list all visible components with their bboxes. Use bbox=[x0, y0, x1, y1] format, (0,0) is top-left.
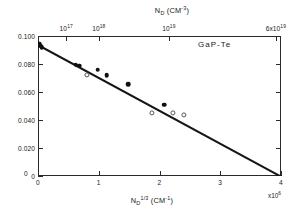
x-tick-label: 0 bbox=[36, 179, 40, 186]
x-tick-label: 2 bbox=[158, 179, 162, 186]
top-axis-title: ND (CM-3) bbox=[155, 6, 189, 15]
top-tick-label: 1017 bbox=[60, 25, 73, 32]
y-tick bbox=[38, 64, 43, 65]
top-tick bbox=[276, 36, 277, 41]
y-tick-label: 0.040 bbox=[0, 117, 35, 124]
data-point-filled bbox=[126, 82, 131, 87]
top-tick bbox=[99, 36, 100, 41]
x-tick-label: 1 bbox=[97, 179, 101, 186]
y-tick-right bbox=[276, 120, 281, 121]
x-tick bbox=[99, 171, 100, 176]
top-tick bbox=[66, 36, 67, 41]
top-tick-label: 1019 bbox=[162, 25, 175, 32]
y-tick-label: 0.080 bbox=[0, 61, 35, 68]
figure-chart-ed-vs-nd: ND (CM-3) GaP-Te 0123400.0200.0400.0600.… bbox=[0, 0, 303, 214]
y-tick bbox=[38, 176, 43, 177]
y-tick-label: 0.100 bbox=[0, 33, 35, 40]
data-point-filled bbox=[39, 45, 44, 50]
y-tick bbox=[38, 92, 43, 93]
data-point-filled bbox=[95, 67, 100, 72]
y-tick-label: 0.020 bbox=[0, 145, 35, 152]
x-axis-multiplier: x106 bbox=[268, 192, 281, 199]
data-point-filled bbox=[162, 103, 167, 108]
data-point-open bbox=[170, 111, 175, 116]
data-point-open bbox=[181, 112, 186, 117]
x-tick-label: 3 bbox=[218, 179, 222, 186]
data-point-open bbox=[150, 110, 155, 115]
y-tick-label: 0.060 bbox=[0, 89, 35, 96]
x-tick bbox=[220, 171, 221, 176]
data-point-filled bbox=[104, 73, 109, 78]
data-point-open bbox=[84, 72, 89, 77]
x-tick bbox=[160, 171, 161, 176]
y-tick-right bbox=[276, 148, 281, 149]
x-axis-title: ND1/3 (CM-1) bbox=[131, 196, 173, 205]
data-point-filled bbox=[77, 63, 82, 68]
y-tick-right bbox=[276, 92, 281, 93]
top-tick-label: 1018 bbox=[92, 25, 105, 32]
x-tick-label: 4 bbox=[279, 179, 283, 186]
origin-zero-label: 0 bbox=[24, 170, 28, 177]
y-tick bbox=[38, 36, 43, 37]
y-tick bbox=[38, 148, 43, 149]
x-tick bbox=[281, 171, 282, 176]
top-tick-label: 6x1019 bbox=[266, 25, 286, 32]
y-tick-label: 0 bbox=[0, 173, 35, 180]
top-tick bbox=[169, 36, 170, 41]
y-tick bbox=[38, 120, 43, 121]
plot-area bbox=[38, 36, 281, 176]
y-tick-right bbox=[276, 64, 281, 65]
